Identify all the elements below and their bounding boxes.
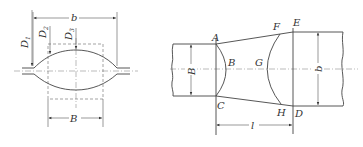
label-D1: D1 (19, 36, 31, 49)
lens-top-curve (34, 50, 117, 68)
label-B: B (69, 113, 77, 124)
label-l: l (251, 120, 254, 131)
label-b: b (71, 12, 77, 23)
label-E: E (292, 17, 301, 28)
label-A: A (211, 32, 219, 43)
lens-bottom-curve (34, 74, 117, 90)
label-D2: D2 (37, 26, 49, 39)
label-F: F (272, 21, 281, 32)
left-figure: b D1 D2 D3 (14, 10, 138, 127)
dashed-box (48, 44, 103, 99)
arc-ABC (216, 44, 226, 96)
label-G: G (255, 57, 263, 68)
label-C: C (217, 100, 225, 111)
label-D3: D3 (63, 28, 75, 41)
label-b-width: b (313, 66, 324, 72)
label-D: D (294, 108, 303, 119)
right-figure: B b l A B C D E F G H (170, 17, 358, 135)
CD-taper (216, 96, 293, 106)
label-B-point: B (227, 57, 235, 68)
diagram-svg: b D1 D2 D3 (0, 0, 363, 147)
label-H: H (276, 107, 286, 118)
left-break-edge (172, 44, 173, 96)
diagram-canvas: b D1 D2 D3 (0, 0, 363, 147)
AE-taper (216, 32, 293, 44)
label-B-width: B (186, 68, 197, 76)
